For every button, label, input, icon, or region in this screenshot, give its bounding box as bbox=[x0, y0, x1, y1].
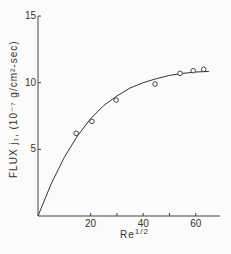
y-tick-label: 15 bbox=[25, 10, 37, 21]
x-tick-label: 60 bbox=[190, 218, 202, 229]
axes bbox=[38, 16, 220, 216]
data-point bbox=[74, 131, 79, 136]
flux-vs-re-chart: 204060 51015 Re1/2 FLUX j₁, (10⁻⁷ g/cm²-… bbox=[0, 0, 231, 254]
y-tick-label: 10 bbox=[25, 77, 37, 88]
y-tick-label: 5 bbox=[30, 143, 36, 154]
data-points bbox=[74, 67, 206, 136]
y-ticks: 51015 bbox=[25, 10, 41, 154]
fit-curve bbox=[38, 71, 209, 216]
data-point bbox=[191, 68, 196, 73]
data-point bbox=[90, 119, 95, 124]
data-point bbox=[153, 82, 158, 87]
data-point bbox=[178, 71, 183, 76]
x-axis-label: Re1/2 bbox=[120, 227, 149, 240]
data-point bbox=[201, 67, 206, 72]
data-point bbox=[114, 98, 119, 103]
x-tick-label: 20 bbox=[85, 218, 97, 229]
y-axis-label: FLUX j₁, (10⁻⁷ g/cm²-sec) bbox=[8, 40, 19, 178]
